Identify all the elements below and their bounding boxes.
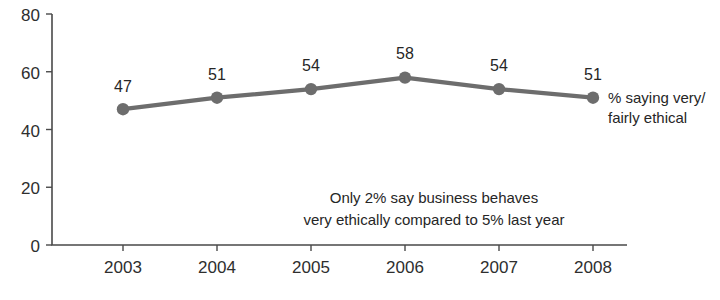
- y-tick-label-0: 0: [31, 237, 40, 256]
- x-axis-labels: 2003 2004 2005 2006 2007 2008: [104, 258, 612, 277]
- y-tick-label-20: 20: [21, 179, 40, 198]
- x-tick-label-2007: 2007: [480, 258, 518, 277]
- data-point-2005: [305, 83, 317, 95]
- series-legend-line2: fairly ethical: [608, 109, 687, 126]
- x-axis-ticks: [123, 245, 593, 251]
- x-tick-label-2006: 2006: [386, 258, 424, 277]
- y-axis-ticks: [46, 14, 52, 245]
- data-label-2006: 58: [396, 45, 414, 62]
- data-labels: 47 51 54 58 54 51: [114, 45, 602, 95]
- x-tick-label-2008: 2008: [574, 258, 612, 277]
- data-label-2007: 54: [490, 57, 508, 74]
- data-point-2008: [587, 92, 599, 104]
- series-line-ethical: [123, 78, 593, 110]
- series-legend-line1: % saying very/: [608, 89, 706, 106]
- y-axis-labels: 80 60 40 20 0: [21, 6, 40, 256]
- x-tick-label-2003: 2003: [104, 258, 142, 277]
- x-tick-label-2005: 2005: [292, 258, 330, 277]
- x-tick-label-2004: 2004: [198, 258, 236, 277]
- y-tick-label-60: 60: [21, 64, 40, 83]
- chart-canvas: 80 60 40 20 0 2003 2004 2005 2006 2007 2…: [0, 0, 720, 300]
- annotation-line2: very ethically compared to 5% last year: [304, 211, 565, 228]
- data-point-2004: [211, 92, 223, 104]
- chart-annotation: Only 2% say business behaves very ethica…: [304, 189, 565, 228]
- data-label-2005: 54: [302, 57, 320, 74]
- series-legend: % saying very/ fairly ethical: [608, 89, 706, 126]
- line-chart: 80 60 40 20 0 2003 2004 2005 2006 2007 2…: [0, 0, 720, 300]
- data-point-2007: [493, 83, 505, 95]
- annotation-line1: Only 2% say business behaves: [330, 189, 538, 206]
- data-point-2003: [117, 103, 129, 115]
- data-label-2008: 51: [584, 66, 602, 83]
- data-point-2006: [399, 71, 411, 83]
- data-label-2004: 51: [208, 66, 226, 83]
- y-tick-label-40: 40: [21, 122, 40, 141]
- data-label-2003: 47: [114, 78, 132, 95]
- y-tick-label-80: 80: [21, 6, 40, 25]
